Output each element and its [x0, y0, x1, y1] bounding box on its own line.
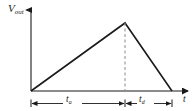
y-axis-label: Vout: [8, 3, 23, 14]
y-axis-label-main: V: [8, 2, 15, 14]
waveform-trace: [31, 23, 172, 91]
waveform-figure: Vout ta td t: [0, 0, 196, 111]
dimension-label-ta: ta: [66, 95, 72, 105]
y-axis-label-subscript: out: [15, 8, 24, 15]
plot-canvas: [0, 0, 196, 111]
dimension-label-td: td: [139, 95, 145, 105]
dimension-label-td-subscript: d: [142, 99, 145, 105]
x-axis-label: t: [183, 95, 186, 105]
dimension-label-ta-subscript: a: [69, 99, 72, 105]
